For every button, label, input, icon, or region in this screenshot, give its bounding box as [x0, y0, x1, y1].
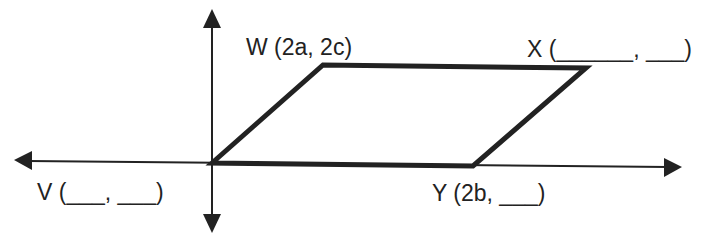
- parallelogram-diagram: W (2a, 2c) X (______, ___) V (___, ___) …: [0, 0, 724, 235]
- vertex-label-y: Y (2b, ___): [432, 180, 545, 206]
- y-axis: [203, 9, 221, 233]
- vertex-label-x: X (______, ___): [527, 36, 692, 62]
- vertex-label-v: V (___, ___): [37, 179, 164, 205]
- x-axis-left-arrow-icon: [14, 151, 32, 170]
- y-axis-up-arrow-icon: [203, 9, 221, 28]
- x-axis-right-arrow-icon: [664, 158, 682, 177]
- vertex-label-w: W (2a, 2c): [246, 34, 352, 60]
- y-axis-down-arrow-icon: [203, 214, 221, 233]
- parallelogram-vwxy: [212, 65, 586, 166]
